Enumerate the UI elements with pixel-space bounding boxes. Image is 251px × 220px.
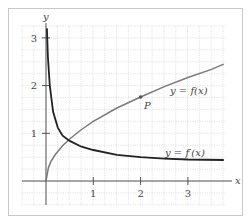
point-p-label: P xyxy=(143,100,151,111)
point-p-marker xyxy=(139,95,143,99)
x-tick-label-2: 2 xyxy=(137,188,143,199)
y-tick-label-1: 1 xyxy=(31,128,37,139)
y-axis-label: y xyxy=(42,11,49,22)
chart-figure: 1 2 3 1 2 3 x y P y = f(x) y = f′(x) xyxy=(0,0,251,220)
x-axis-label: x xyxy=(235,175,241,186)
x-tick-label-1: 1 xyxy=(90,188,96,199)
figure-frame xyxy=(9,9,243,216)
f-prime-curve-label: y = f′(x) xyxy=(164,147,205,158)
y-tick-label-2: 2 xyxy=(31,80,37,91)
y-tick-label-3: 3 xyxy=(31,33,37,44)
f-curve-label: y = f(x) xyxy=(169,85,208,96)
x-tick-label-3: 3 xyxy=(185,188,191,199)
